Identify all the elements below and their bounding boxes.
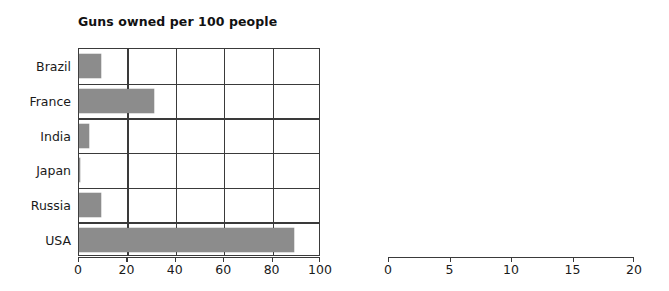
x-axis-left: 020406080100 [78,257,320,279]
bar-row [79,188,321,223]
bar-row [79,49,321,84]
x-tick-label-40: 40 [167,262,183,277]
bar-row [79,222,321,257]
bar-japan [79,158,80,182]
plot-area-left: BrazilFranceIndiaJapanRussiaUSA [78,48,320,256]
bar-france [79,89,154,113]
bar-russia [79,193,101,217]
x-axis-right: 05101520 [388,257,634,279]
bar-brazil [79,54,101,78]
axis-line [78,257,320,258]
category-label-usa: USA [45,232,79,247]
x-tick-label-20: 20 [626,262,642,277]
x-tick-label-0: 0 [384,262,392,277]
bar-row [79,118,321,153]
bar-row [79,84,321,119]
chart-panel-firearm-deaths: Deaths caused by firearms (per 100,000 p… [340,0,669,291]
x-tick-label-80: 80 [264,262,280,277]
category-label-russia: Russia [31,198,79,213]
x-tick-label-60: 60 [215,262,231,277]
bar-india [79,124,89,148]
chart-title-left: Guns owned per 100 people [78,14,277,29]
charts-container: Guns owned per 100 people BrazilFranceIn… [0,0,669,291]
x-tick-label-20: 20 [118,262,134,277]
x-tick-label-5: 5 [446,262,454,277]
category-label-japan: Japan [36,163,79,178]
category-label-france: France [29,94,79,109]
x-tick-label-0: 0 [74,262,82,277]
bar-row [79,153,321,188]
chart-panel-guns-owned: Guns owned per 100 people BrazilFranceIn… [0,0,340,291]
bar-usa [79,228,294,252]
category-label-india: India [40,128,79,143]
x-tick-label-15: 15 [565,262,581,277]
x-tick-label-100: 100 [308,262,332,277]
category-label-brazil: Brazil [36,59,79,74]
x-tick-label-10: 10 [503,262,519,277]
